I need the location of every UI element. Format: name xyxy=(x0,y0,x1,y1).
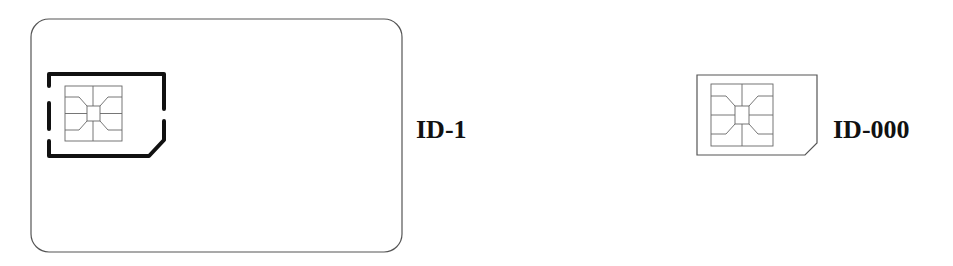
id1-card-outline xyxy=(31,19,402,252)
id000-label: ID-000 xyxy=(833,117,910,143)
id1-card xyxy=(31,19,402,252)
id000-card xyxy=(697,75,817,155)
diagram-canvas xyxy=(0,0,953,266)
sim-card-format-diagram: ID-1 ID-000 xyxy=(0,0,953,266)
id1-label: ID-1 xyxy=(416,117,467,143)
